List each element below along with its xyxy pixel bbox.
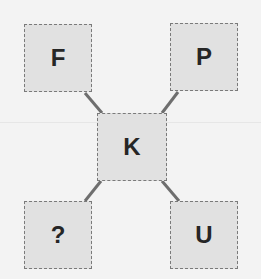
letter-label: K xyxy=(123,135,140,159)
letter-box-bottom-right: U xyxy=(170,201,238,269)
connector-top-left xyxy=(85,93,102,113)
connector-bottom-left xyxy=(85,181,101,201)
letter-box-top-right: P xyxy=(170,23,238,91)
connector-top-right xyxy=(162,92,178,113)
letter-label: F xyxy=(51,46,66,70)
letter-box-bottom-left-unknown: ? xyxy=(24,201,92,269)
connector-bottom-right xyxy=(162,181,179,201)
letter-label: P xyxy=(196,45,212,69)
letter-box-center: K xyxy=(97,113,167,181)
letter-box-top-left: F xyxy=(24,24,92,92)
letter-label: U xyxy=(195,223,212,247)
question-mark-label: ? xyxy=(51,223,66,247)
